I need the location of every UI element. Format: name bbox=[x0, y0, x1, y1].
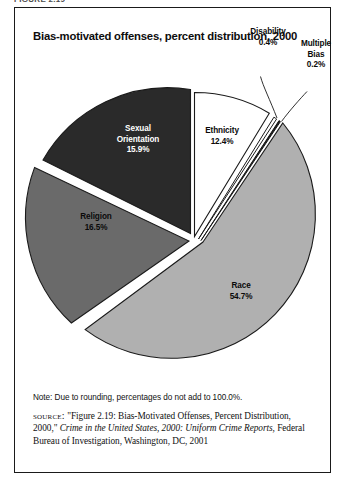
slice-label-race: Race 54.7% bbox=[211, 281, 271, 302]
disability-name: Disability bbox=[250, 27, 285, 36]
sexual-orientation-percent: 15.9% bbox=[127, 145, 150, 154]
slice-label-ethnicity: Ethnicity 12.4% bbox=[192, 126, 252, 147]
race-name: Race bbox=[231, 281, 250, 290]
pie-chart-svg bbox=[15, 66, 330, 386]
race-percent: 54.7% bbox=[230, 292, 253, 301]
religion-name: Religion bbox=[80, 212, 112, 221]
multiple-bias-percent: 0.2% bbox=[307, 60, 325, 69]
ethnicity-percent: 12.4% bbox=[211, 137, 234, 146]
source-text: SOURCE: "Figure 2.19: Bias-Motivated Off… bbox=[33, 410, 317, 447]
pie-chart: Disability 0.4% Multiple Bias 0.2% Ethni… bbox=[15, 66, 330, 386]
figure-caption: FIGURE 2.19 bbox=[14, 0, 65, 3]
sexual-orientation-name-line2: Orientation bbox=[117, 135, 160, 144]
source-label: SOURCE: bbox=[33, 410, 65, 421]
sexual-orientation-name-line1: Sexual bbox=[125, 124, 151, 133]
slice-label-religion: Religion 16.5% bbox=[65, 212, 127, 233]
ethnicity-name: Ethnicity bbox=[205, 126, 239, 135]
religion-percent: 16.5% bbox=[85, 223, 108, 232]
leader-line-multiple-bias bbox=[282, 92, 308, 122]
slice-label-multiple-bias: Multiple Bias 0.2% bbox=[286, 39, 345, 71]
multiple-bias-name-line1: Multiple bbox=[301, 39, 331, 48]
figure-frame: Bias-motivated offenses, percent distrib… bbox=[14, 7, 331, 473]
figure-footer: Note: Due to rounding, percentages do no… bbox=[33, 392, 317, 447]
note-text: Note: Due to rounding, percentages do no… bbox=[33, 392, 317, 403]
disability-percent: 0.4% bbox=[259, 38, 277, 47]
slice-label-sexual-orientation: Sexual Orientation 15.9% bbox=[100, 124, 176, 156]
multiple-bias-name-line2: Bias bbox=[308, 50, 325, 59]
source-publication-title: Crime in the United States, 2000: Unifor… bbox=[60, 423, 275, 433]
